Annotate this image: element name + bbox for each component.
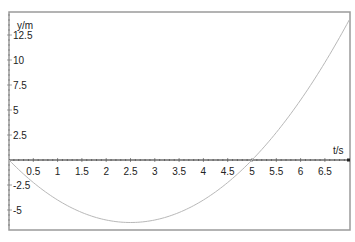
x-tick-label: 3.5 <box>172 166 186 177</box>
x-tick-label: 6 <box>298 166 304 177</box>
y-tick-label: 2.5 <box>13 130 27 141</box>
x-tick-label: 1 <box>55 166 61 177</box>
y-tick-label: -5 <box>13 205 22 216</box>
y-axis: 12.5107.552.5-2.5-5 <box>7 15 33 225</box>
chart: 12.5107.552.5-2.5-5 0.511.522.533.544.55… <box>0 0 355 242</box>
x-tick-label: 6.5 <box>318 166 332 177</box>
x-axis: 0.511.522.533.544.555.566.5 <box>9 158 350 177</box>
x-tick-label: 3 <box>152 166 158 177</box>
x-tick-label: 0.5 <box>26 166 40 177</box>
x-tick-label: 2.5 <box>124 166 138 177</box>
y-tick-label: 7.5 <box>13 80 27 91</box>
x-tick-label: 5 <box>249 166 255 177</box>
x-axis-title: t/s <box>333 145 344 156</box>
x-tick-label: 1.5 <box>75 166 89 177</box>
x-tick-label: 4.5 <box>221 166 235 177</box>
x-tick-label: 2 <box>103 166 109 177</box>
x-tick-label: 4 <box>201 166 207 177</box>
y-axis-title: y/m <box>17 20 33 31</box>
data-curve <box>9 20 349 223</box>
y-tick-label: 5 <box>13 105 19 116</box>
y-tick-label: 12.5 <box>13 30 33 41</box>
y-tick-label: -2.5 <box>13 180 31 191</box>
plot-frame <box>9 12 350 230</box>
x-tick-label: 5.5 <box>269 166 283 177</box>
y-tick-label: 10 <box>13 55 25 66</box>
